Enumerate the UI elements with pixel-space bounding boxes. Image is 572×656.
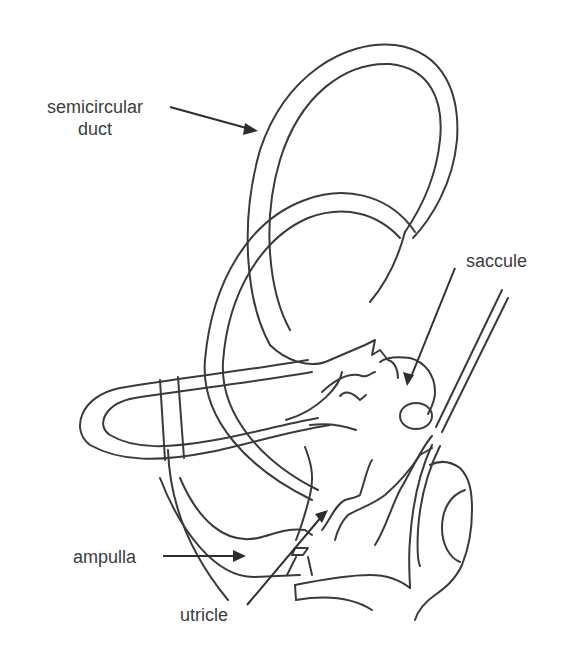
inner-ear-diagram: semicircular duct saccule ampulla utricl… <box>0 0 572 656</box>
label-ampulla: ampulla <box>73 546 136 568</box>
cochlear-duct <box>375 290 508 620</box>
lateral-semicircular-duct <box>80 360 330 460</box>
label-semicircular-duct: semicircular duct <box>30 96 160 140</box>
saccule-body <box>380 357 435 429</box>
lower-duct-sweep <box>160 478 312 577</box>
basal-structure <box>295 575 410 610</box>
arrowhead-icon <box>233 550 246 562</box>
utricle-arrow <box>247 510 328 605</box>
arrowhead-icon <box>243 123 258 135</box>
semicircular-duct-arrow <box>170 107 258 135</box>
label-semicircular-duct-line1: semicircular <box>30 96 160 118</box>
saccule-arrow <box>403 268 455 386</box>
label-saccule: saccule <box>466 250 527 272</box>
saccule-macula <box>400 403 432 429</box>
label-utricle: utricle <box>180 604 228 626</box>
label-semicircular-duct-line2: duct <box>30 118 160 140</box>
